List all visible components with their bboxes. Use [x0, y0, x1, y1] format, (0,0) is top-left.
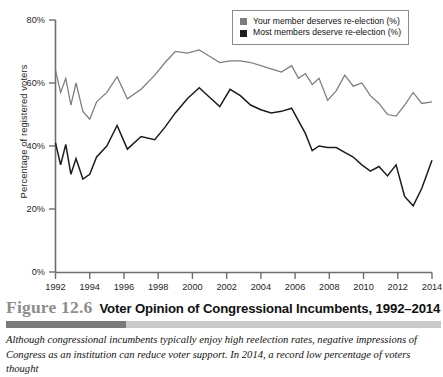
y-tick-label: 80% — [27, 15, 45, 25]
chart-plot-area: 0%20%40%60%80% 1992199419961998200020022… — [0, 0, 443, 296]
rule-bar-light-segment — [126, 321, 441, 328]
y-axis-title: Percentage of registered voters — [18, 37, 29, 227]
figure-rule-bar — [6, 321, 441, 328]
y-axis-ticks: 0%20%40%60%80% — [27, 15, 56, 277]
figure-title: Voter Opinion of Congressional Incumbent… — [99, 301, 440, 316]
x-tick-label: 2008 — [319, 282, 339, 292]
x-tick-label: 2006 — [285, 282, 305, 292]
y-tick-label: 40% — [27, 141, 45, 151]
x-tick-label: 2000 — [182, 282, 202, 292]
legend-item-most-members: Most members deserve re-election (%) — [239, 28, 401, 37]
x-axis-ticks: 1992199419961998200020022004200620082010… — [45, 273, 442, 293]
x-tick-label: 2004 — [251, 282, 271, 292]
figure-caption-text: Although congressional incumbents typica… — [6, 333, 437, 377]
y-tick-label: 20% — [27, 204, 45, 214]
x-tick-label: 2010 — [353, 282, 373, 292]
chart-series-lines — [56, 50, 433, 206]
x-tick-label: 2002 — [216, 282, 236, 292]
y-tick-label: 60% — [27, 78, 45, 88]
legend-swatch-most-members — [239, 29, 248, 38]
series-line-0 — [56, 50, 433, 119]
legend-swatch-your-member — [239, 17, 248, 26]
figure-caption-block: Figure 12.6 Voter Opinion of Congression… — [0, 297, 443, 377]
chart-legend: Your member deserves re-election (%) Mos… — [232, 10, 409, 45]
legend-item-your-member: Your member deserves re-election (%) — [239, 17, 401, 26]
rule-bar-dark-segment — [6, 321, 126, 328]
legend-label-most-members: Most members deserve re-election (%) — [253, 28, 401, 37]
x-tick-label: 2014 — [422, 282, 442, 292]
x-tick-label: 1998 — [148, 282, 168, 292]
chart-axes — [56, 20, 433, 273]
series-line-1 — [56, 88, 433, 206]
figure-number: Figure 12.6 — [6, 297, 92, 318]
figure-heading: Figure 12.6 Voter Opinion of Congression… — [0, 297, 443, 318]
x-tick-label: 1994 — [80, 282, 100, 292]
y-tick-label: 0% — [32, 267, 45, 277]
x-tick-label: 1996 — [114, 282, 134, 292]
x-tick-label: 1992 — [45, 282, 65, 292]
x-tick-label: 2012 — [388, 282, 408, 292]
legend-label-your-member: Your member deserves re-election (%) — [253, 17, 400, 26]
